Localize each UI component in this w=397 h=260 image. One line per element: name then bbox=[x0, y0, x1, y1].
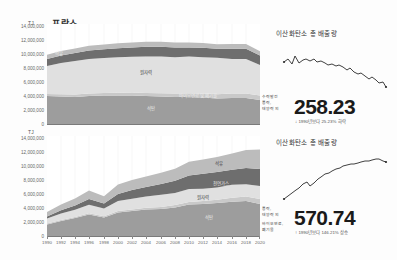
y-tick: 10,000,000 bbox=[0, 52, 44, 57]
x-tick: 1996 bbox=[81, 240, 97, 245]
x-tickmark bbox=[217, 236, 218, 239]
x-tick: 2004 bbox=[138, 240, 154, 245]
x-axis-ticks-korea bbox=[47, 236, 260, 239]
y-tick: 2,000,000 bbox=[0, 108, 44, 113]
area-label-gas-korea: 천연가스 bbox=[213, 180, 229, 186]
x-tickmark bbox=[89, 236, 90, 239]
metric-france: 이산화탄소 총 배출량 258.23 ↓ 1990년보다 25.23% 하락 bbox=[276, 28, 394, 128]
y-tick: 12,000,000 bbox=[0, 38, 44, 43]
y-tick: 8,000,000 bbox=[0, 66, 44, 71]
x-tickmark bbox=[61, 236, 62, 239]
y-tick: 14,000,000 bbox=[0, 136, 44, 141]
x-tickmark bbox=[47, 236, 48, 239]
x-tickmark bbox=[232, 236, 233, 239]
metric-korea: 이산화탄소 총 배출량 570.74 ↑ 1990년보다 146.21% 상승 bbox=[276, 137, 394, 242]
y-tick: 10,000,000 bbox=[0, 164, 44, 169]
x-tickmark bbox=[246, 236, 247, 239]
metric-delta-france: ↓ 1990년보다 25.23% 하락 bbox=[295, 118, 346, 124]
y-tick: 6,000,000 bbox=[0, 192, 44, 197]
metric-title-korea: 이산화탄소 총 배출량 bbox=[276, 137, 337, 147]
sparkline-france bbox=[282, 46, 390, 96]
x-tickmark bbox=[175, 236, 176, 239]
area-label-oil-france: 석유 bbox=[55, 50, 63, 56]
area-label-coal-korea: 석탄 bbox=[205, 214, 213, 220]
area-chart-france: 석유 원자력 바이오연료 및 폐기물 석탄 bbox=[47, 24, 260, 124]
panel-france: TJ 14,000,000 12,000,000 10,000,000 8,00… bbox=[0, 0, 397, 131]
france-band-nuclear bbox=[47, 56, 260, 95]
x-tickmark bbox=[161, 236, 162, 239]
y-tick: 6,000,000 bbox=[0, 80, 44, 85]
area-label-bio-france: 바이오연료 및 폐기물 bbox=[179, 92, 217, 98]
y-tick: 4,000,000 bbox=[0, 94, 44, 99]
x-tickmark bbox=[203, 236, 204, 239]
area-chart-korea: 석유 천연가스 원자력 석탄 bbox=[47, 136, 260, 236]
y-tick: 4,000,000 bbox=[0, 206, 44, 211]
area-label-oil-korea: 석유 bbox=[215, 160, 223, 166]
x-tickmark bbox=[104, 236, 105, 239]
panel-korea: TJ 14,000,000 12,000,000 10,000,000 8,00… bbox=[0, 125, 397, 260]
korea-area-svg bbox=[47, 136, 260, 236]
x-tickmark bbox=[259, 236, 260, 239]
y-tick: 12,000,000 bbox=[0, 150, 44, 155]
x-tickmark bbox=[189, 236, 190, 239]
x-tickmark bbox=[118, 236, 119, 239]
x-axis-labels: 1990 1992 1994 1996 1998 2000 2002 2004 … bbox=[47, 240, 277, 248]
y-tick: 2,000,000 bbox=[0, 220, 44, 225]
area-label-nuclear-france: 원자력 bbox=[140, 69, 152, 75]
sparkline-korea bbox=[282, 155, 390, 207]
x-tick: 2014 bbox=[209, 240, 225, 245]
y-tick: 14,000,000 bbox=[0, 24, 44, 29]
infographic-root: TJ 14,000,000 12,000,000 10,000,000 8,00… bbox=[0, 0, 397, 260]
metric-delta-korea: ↑ 1990년보다 146.21% 상승 bbox=[295, 229, 348, 235]
x-tickmark bbox=[75, 236, 76, 239]
metric-value-korea: 570.74 bbox=[294, 207, 355, 228]
metric-value-france: 258.23 bbox=[294, 96, 355, 117]
metric-title-france: 이산화탄소 총 배출량 bbox=[276, 28, 337, 38]
x-tick: 2020 bbox=[252, 240, 268, 245]
x-tickmark bbox=[146, 236, 147, 239]
area-label-coal-france: 석탄 bbox=[147, 105, 155, 111]
area-label-nuclear-korea: 원자력 bbox=[197, 194, 209, 200]
y-axis-unit-korea: TJ bbox=[28, 129, 34, 135]
y-tick: 8,000,000 bbox=[0, 178, 44, 183]
side-label-bio-cont-korea: 폐기물 bbox=[262, 228, 274, 233]
y-tick: 0 bbox=[0, 234, 44, 239]
x-tickmark bbox=[132, 236, 133, 239]
